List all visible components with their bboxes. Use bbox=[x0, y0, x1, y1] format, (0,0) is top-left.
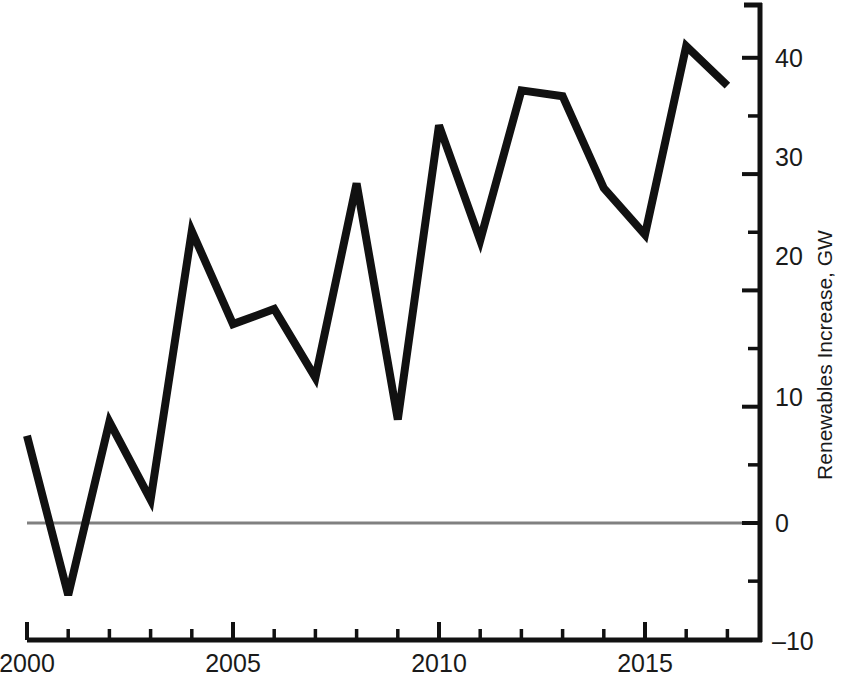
line-chart: 2000 2005 2010 2015 40 30 20 10 0 –10 Re… bbox=[0, 0, 849, 683]
x-tick-label: 2010 bbox=[411, 649, 467, 677]
y-tick-label: 10 bbox=[775, 383, 803, 411]
y-tick-label: 20 bbox=[775, 242, 803, 270]
y-tick-label: –10 bbox=[772, 627, 814, 655]
chart-figure: 2000 2005 2010 2015 40 30 20 10 0 –10 Re… bbox=[0, 0, 849, 683]
x-tick-label: 2005 bbox=[205, 649, 261, 677]
chart-background bbox=[0, 0, 849, 683]
y-tick-label: 30 bbox=[775, 143, 803, 171]
x-tick-label: 2000 bbox=[0, 649, 55, 677]
y-tick-label: 40 bbox=[775, 44, 803, 72]
y-tick-label: 0 bbox=[775, 509, 789, 537]
x-tick-label: 2015 bbox=[617, 649, 673, 677]
y-axis-title: Renewables Increase, GW bbox=[813, 230, 836, 480]
